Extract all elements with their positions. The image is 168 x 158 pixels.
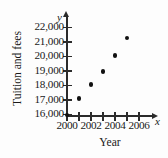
data-point	[89, 82, 94, 87]
data-point	[77, 96, 82, 101]
x-tick-label-2006: 2006	[122, 120, 156, 131]
y-axis-title: Tuition and fees	[11, 11, 24, 127]
scatter-plot-area: y x 22,000 21,000 20,000 19,000 18,000 1…	[0, 0, 168, 158]
data-point	[125, 36, 130, 41]
chart-figure: y x 22,000 21,000 20,000 19,000 18,000 1…	[0, 0, 168, 158]
x-axis-title: Year	[60, 136, 160, 149]
y-axis-line	[66, 17, 68, 117]
y-axis-arrow-icon	[63, 11, 69, 17]
data-point	[113, 53, 118, 58]
data-point	[101, 69, 106, 74]
